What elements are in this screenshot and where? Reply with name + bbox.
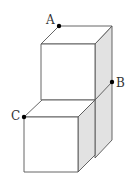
- lower-cube-front-face: [24, 117, 78, 172]
- upper-cube-right-face: [95, 26, 112, 158]
- label-a: A: [45, 13, 55, 27]
- point-b: [110, 80, 114, 84]
- point-c: [22, 115, 26, 119]
- label-b: B: [116, 76, 125, 90]
- label-c: C: [11, 109, 20, 123]
- point-a: [57, 24, 61, 28]
- upper-cube-front-face: [41, 44, 95, 100]
- stacked-cubes-diagram: A B C: [0, 0, 135, 181]
